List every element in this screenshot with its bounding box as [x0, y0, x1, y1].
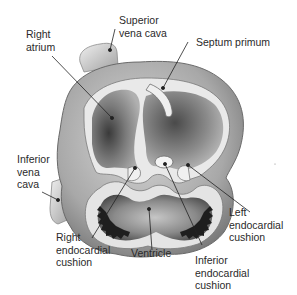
- label-ventricle: Ventricle: [131, 247, 171, 260]
- label-left-endocardial-cushion: Left endocardial cushion: [229, 206, 283, 244]
- label-inferior-endocardial-cushion: Inferior endocardial cushion: [195, 254, 249, 292]
- label-superior-vena-cava: Superior vena cava: [119, 14, 167, 39]
- label-right-atrium: Right atrium: [26, 28, 55, 53]
- label-septum-primum: Septum primum: [196, 36, 270, 49]
- inferior-endocardial-cushion-shape: [155, 156, 173, 168]
- label-inferior-vena-cava: Inferior vena cava: [17, 153, 50, 191]
- speck: [274, 163, 275, 164]
- label-right-endocardial-cushion: Right endocardial cushion: [56, 231, 110, 269]
